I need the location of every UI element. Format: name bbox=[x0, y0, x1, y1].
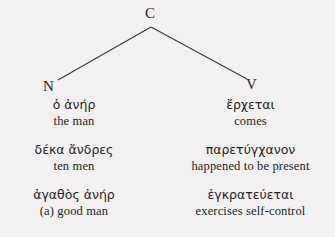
example-entry: παρετύγχανον happened to be present bbox=[168, 142, 333, 174]
english-gloss: comes bbox=[168, 113, 333, 129]
english-gloss: (a) good man bbox=[6, 203, 142, 219]
branch-line-right bbox=[151, 27, 247, 79]
verb-examples-column: ἔρχεται comes παρετύγχανον happened to b… bbox=[168, 97, 333, 219]
tree-node-v: V bbox=[246, 77, 257, 92]
tree-node-c: C bbox=[145, 6, 155, 21]
english-gloss: happened to be present bbox=[168, 158, 333, 174]
greek-text: παρετύγχανον bbox=[168, 142, 333, 158]
example-entry: ἀγαθὸς ἀνήρ (a) good man bbox=[6, 187, 142, 219]
examples-area: ὁ ἀνήρ the man δέκα ἄνδρες ten men ἀγαθὸ… bbox=[0, 97, 335, 227]
branch-line-left bbox=[58, 27, 151, 80]
figure-canvas: C N V ὁ ἀνήρ the man δέκα ἄνδρες ten men… bbox=[0, 0, 335, 237]
english-gloss: ten men bbox=[6, 158, 142, 174]
tree-node-n: N bbox=[43, 79, 54, 94]
greek-text: δέκα ἄνδρες bbox=[6, 142, 142, 158]
greek-text: ἔρχεται bbox=[168, 97, 333, 113]
example-entry: δέκα ἄνδρες ten men bbox=[6, 142, 142, 174]
greek-text: ὁ ἀνήρ bbox=[6, 97, 142, 113]
example-entry: ἐγκρατεύεται exercises self-control bbox=[168, 187, 333, 219]
greek-text: ἀγαθὸς ἀνήρ bbox=[6, 187, 142, 203]
example-entry: ὁ ἀνήρ the man bbox=[6, 97, 142, 129]
greek-text: ἐγκρατεύεται bbox=[168, 187, 333, 203]
example-entry: ἔρχεται comes bbox=[168, 97, 333, 129]
english-gloss: exercises self-control bbox=[168, 203, 333, 219]
english-gloss: the man bbox=[6, 113, 142, 129]
noun-examples-column: ὁ ἀνήρ the man δέκα ἄνδρες ten men ἀγαθὸ… bbox=[6, 97, 142, 219]
